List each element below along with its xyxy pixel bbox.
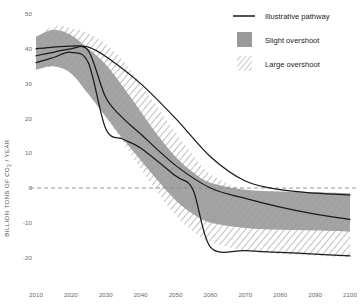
x-tick-label: 2060 bbox=[204, 291, 218, 298]
x-tick-label: 2030 bbox=[99, 291, 113, 298]
x-tick-label: 2020 bbox=[64, 291, 78, 298]
emissions-pathways-chart: 50403020100-10-20 2010202020302040205020… bbox=[0, 0, 362, 306]
y-tick-label: -20 bbox=[23, 254, 33, 261]
x-tick-label: 2080 bbox=[273, 291, 287, 298]
x-tick-label: 2050 bbox=[169, 291, 183, 298]
y-tick-label: 50 bbox=[25, 10, 32, 17]
legend-label: Illustrative pathway bbox=[265, 12, 330, 21]
x-tick-label: 2070 bbox=[238, 291, 252, 298]
y-tick-label: 0 bbox=[29, 184, 33, 191]
x-tick-label: 2010 bbox=[29, 291, 43, 298]
x-tick-label: 2090 bbox=[308, 291, 322, 298]
y-tick-label: 10 bbox=[25, 149, 32, 156]
y-tick-label: 30 bbox=[25, 80, 32, 87]
legend-swatch-hatched bbox=[237, 56, 252, 71]
y-tick-label: 20 bbox=[25, 115, 32, 122]
legend-label: Slight overshoot bbox=[265, 36, 320, 45]
y-tick-label: 40 bbox=[25, 45, 32, 52]
legend-label: Large overshoot bbox=[265, 60, 321, 69]
x-tick-label: 2100 bbox=[343, 291, 357, 298]
y-tick-label: -10 bbox=[23, 219, 33, 226]
x-tick-label: 2040 bbox=[134, 291, 148, 298]
legend-swatch-solid bbox=[237, 32, 252, 47]
chart-canvas: 50403020100-10-20 2010202020302040205020… bbox=[0, 0, 362, 306]
